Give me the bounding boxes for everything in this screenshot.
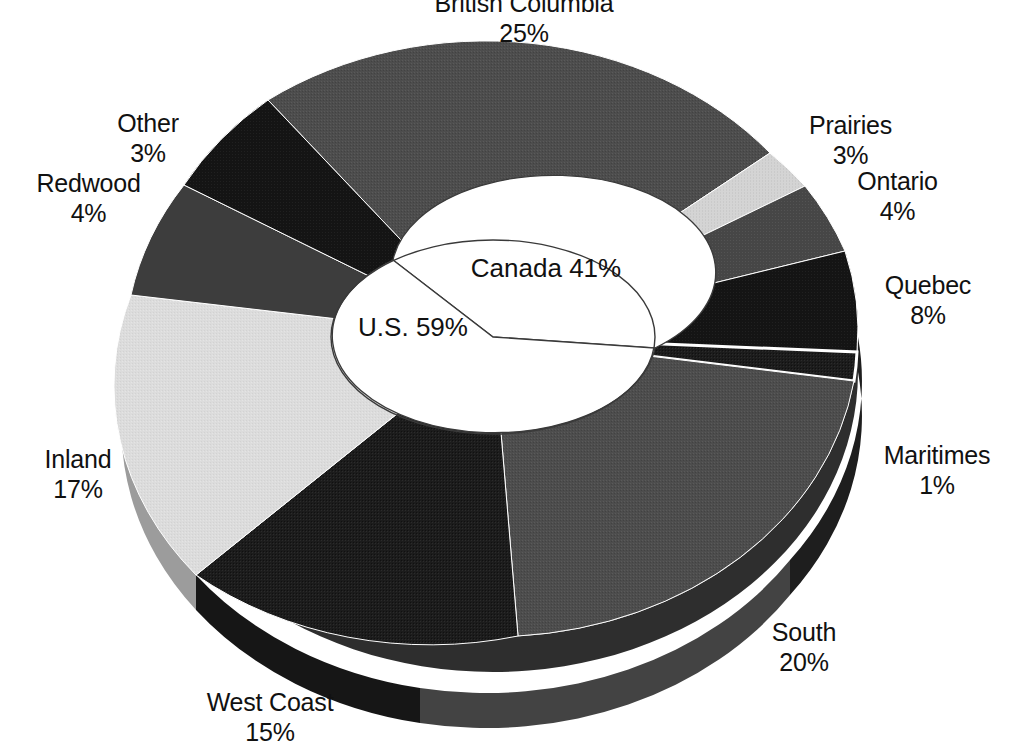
label-west-coast: West Coast 15% (170, 687, 370, 747)
label-british-columbia: British Columbia 25% (409, 0, 639, 48)
label-quebec-name: Quebec (858, 270, 998, 300)
label-inland-name: Inland (8, 444, 148, 474)
label-ontario: Ontario 4% (825, 166, 970, 226)
label-other-name: Other (58, 108, 238, 138)
label-prairies: Prairies 3% (768, 110, 933, 170)
label-british-columbia-pct: 25% (409, 18, 639, 48)
label-us-name: U.S. (358, 312, 409, 342)
label-west-coast-name: West Coast (170, 687, 370, 717)
label-west-coast-pct: 15% (170, 717, 370, 747)
label-redwood: Redwood 4% (0, 168, 181, 228)
label-canada: Canada 41% (456, 252, 636, 284)
label-maritimes: Maritimes 1% (862, 440, 1012, 500)
label-other: Other 3% (58, 108, 238, 168)
label-other-pct: 3% (58, 138, 238, 168)
label-prairies-name: Prairies (768, 110, 933, 140)
label-maritimes-pct: 1% (862, 470, 1012, 500)
pie-chart: British Columbia 25% Other 3% Redwood 4%… (0, 0, 1015, 749)
label-maritimes-name: Maritimes (862, 440, 1012, 470)
label-redwood-name: Redwood (0, 168, 181, 198)
label-us-pct: 59% (416, 312, 468, 342)
label-quebec-pct: 8% (858, 300, 998, 330)
label-quebec: Quebec 8% (858, 270, 998, 330)
label-inland-pct: 17% (8, 474, 148, 504)
label-canada-name: Canada (471, 253, 562, 283)
label-canada-pct: 41% (569, 253, 621, 283)
label-redwood-pct: 4% (0, 198, 181, 228)
label-south-name: South (739, 617, 869, 647)
label-british-columbia-name: British Columbia (409, 0, 639, 18)
label-us: U.S. 59% (348, 311, 478, 343)
label-inland: Inland 17% (8, 444, 148, 504)
label-ontario-name: Ontario (825, 166, 970, 196)
label-south: South 20% (739, 617, 869, 677)
label-ontario-pct: 4% (825, 196, 970, 226)
label-south-pct: 20% (739, 647, 869, 677)
